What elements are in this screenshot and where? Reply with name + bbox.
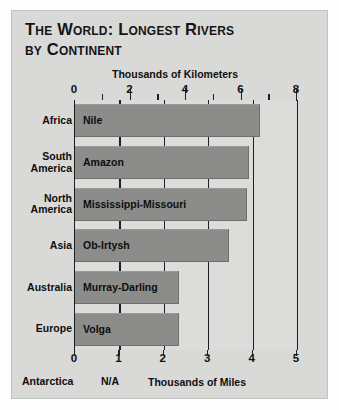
category-label-line: America [31,163,72,175]
category-label-australia: Australia [27,282,72,294]
category-label-line: Australia [27,282,72,294]
bar-asia: Ob-Irtysh [75,229,229,262]
bar-label-river: Amazon [83,156,124,168]
bar-label-river: Murray-Darling [83,281,158,293]
bar-south-america: Amazon [75,146,249,179]
bottom-tick-mark-4 [252,350,253,356]
category-label-line: Africa [42,115,72,127]
antarctica-label: Antarctica [22,375,73,387]
category-label-line: South [31,151,72,163]
antarctica-value: N/A [101,375,119,387]
bar-europe: Volga [75,313,179,346]
bar-label-river: Mississippi-Missouri [83,198,186,210]
chart-title-line-1: The World: Longest Rivers [25,19,315,39]
chart-figure: The World: Longest Rivers by Continent T… [0,0,339,410]
top-axis-tick-labels: 02468 [0,83,339,97]
gridline-mile-3 [208,100,209,350]
bar-label-river: Nile [83,114,102,126]
category-label-line: America [31,204,72,216]
bottom-tick-mark-1 [118,350,119,356]
bottom-tick-mark-2 [163,350,164,356]
top-axis-tick-0: 0 [71,83,77,95]
bar-label-river: Volga [83,323,111,335]
chart-title-line-2: by Continent [25,39,315,59]
category-label-line: Asia [50,240,72,252]
gridline-mile-5 [297,100,298,350]
bar-africa: Nile [75,104,260,137]
category-label-europe: Europe [36,323,72,335]
category-label-asia: Asia [50,240,72,252]
bottom-axis-tick-labels: 012345 [0,352,339,366]
bar-australia: Murray-Darling [75,271,179,304]
bar-north-america: Mississippi-Missouri [75,188,247,221]
chart-title: The World: Longest Rivers by Continent [25,19,315,59]
plot-area: NileAmazonMississippi-MissouriOb-IrtyshM… [74,100,296,350]
bottom-tick-mark-0 [74,350,75,356]
top-axis-caption: Thousands of Kilometers [112,68,238,80]
gridline-mile-4 [253,100,254,350]
antarctica-row: Antarctica N/A [0,375,339,389]
category-label-line: Europe [36,323,72,335]
bar-label-river: Ob-Irtysh [83,239,130,251]
category-label-africa: Africa [42,115,72,127]
bottom-tick-mark-5 [296,350,297,356]
category-label-north-america: NorthAmerica [31,193,72,216]
bottom-tick-mark-3 [207,350,208,356]
category-label-south-america: SouthAmerica [31,151,72,174]
